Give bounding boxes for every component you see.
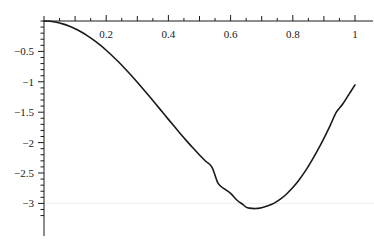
y-tick-label: −2 <box>0 137 34 148</box>
x-tick-label: 0.8 <box>286 29 300 40</box>
y-tick-label: −2.5 <box>0 168 34 179</box>
x-tick-label: 1 <box>352 29 358 40</box>
y-tick-label: −1 <box>0 76 34 87</box>
x-axis-ticks <box>44 15 355 21</box>
x-tick-label: 0.2 <box>99 29 113 40</box>
y-tick-label: −0.5 <box>0 46 34 57</box>
chart-figure: 0.20.40.60.81 −0.5−1−1.5−2−2.5−3 <box>0 0 374 240</box>
plot-area <box>0 0 374 240</box>
y-axis-ticks <box>38 21 44 216</box>
x-tick-label: 0.6 <box>224 29 238 40</box>
data-curve <box>44 21 355 209</box>
y-tick-label: −3 <box>0 198 34 209</box>
x-tick-label: 0.4 <box>162 29 176 40</box>
y-tick-label: −1.5 <box>0 107 34 118</box>
